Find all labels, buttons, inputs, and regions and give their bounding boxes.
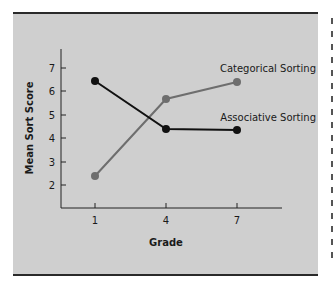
- data-point: [162, 95, 170, 103]
- x-tick-label: 1: [92, 215, 98, 226]
- x-tick-labels: 1 4 7: [92, 215, 240, 226]
- data-point: [233, 78, 241, 86]
- y-ticks: [61, 68, 66, 185]
- x-tick-label: 4: [163, 215, 169, 226]
- y-tick-label: 2: [49, 180, 55, 191]
- y-axis-title: Mean Sort Score: [24, 81, 35, 174]
- y-tick-labels: 7 6 5 4 3 2: [49, 63, 55, 191]
- data-point: [233, 126, 241, 134]
- y-tick-label: 5: [49, 110, 55, 121]
- data-point: [91, 172, 99, 180]
- data-point: [162, 125, 170, 133]
- y-tick-label: 4: [49, 133, 55, 144]
- y-tick-label: 3: [49, 157, 55, 168]
- x-tick-label: 7: [234, 215, 240, 226]
- data-point: [91, 77, 99, 85]
- y-tick-label: 7: [49, 63, 55, 74]
- y-tick-label: 6: [49, 86, 55, 97]
- x-ticks: [95, 203, 237, 208]
- series-label-associative: Associative Sorting: [220, 112, 316, 123]
- line-chart: 7 6 5 4 3 2 1 4 7 Grade Mean Sort Score …: [0, 0, 334, 284]
- series-label-categorical: Categorical Sorting: [220, 63, 316, 74]
- x-axis-title: Grade: [149, 237, 183, 248]
